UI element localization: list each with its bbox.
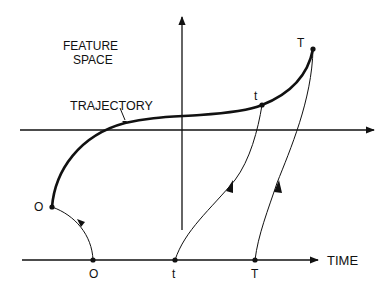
mapping-arrow-T: [274, 180, 282, 193]
feature-space-label-line1: FEATURE: [63, 39, 118, 53]
dot-O-time: [90, 257, 95, 262]
dot-t-time: [172, 257, 177, 262]
point-O-time-label: O: [89, 267, 98, 281]
point-t-time-label: t: [172, 267, 176, 281]
mapping-curve-O: [52, 207, 93, 260]
point-T-feature-label: T: [297, 36, 305, 50]
mapping-curve-t: [175, 105, 262, 260]
point-t-feature-label: t: [254, 89, 258, 103]
time-axis-label: TIME: [327, 253, 358, 268]
point-T-time-label: T: [251, 267, 259, 281]
dot-O-feature: [49, 204, 54, 209]
dot-T-feature: [310, 46, 315, 51]
feature-space-diagram: FEATURE SPACE TRAJECTORY TIME O t T O t …: [0, 0, 389, 296]
mapping-curve-T: [255, 49, 313, 260]
trajectory-label: TRAJECTORY: [70, 99, 154, 113]
point-O-feature-label: O: [34, 200, 43, 214]
mapping-arrow-t: [226, 180, 233, 193]
feature-space-label-line2: SPACE: [73, 53, 113, 67]
dot-t-feature: [259, 102, 264, 107]
dot-T-time: [252, 257, 257, 262]
mapping-arrow-O: [77, 219, 85, 227]
